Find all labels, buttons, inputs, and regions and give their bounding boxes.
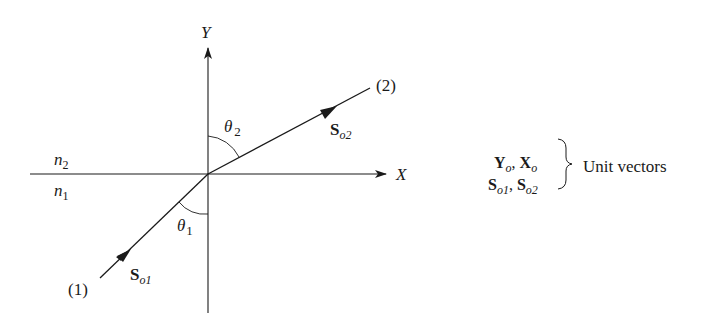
y-axis-label: Y <box>201 23 212 42</box>
theta1-label: θ1 <box>177 216 193 238</box>
theta2-arc <box>208 136 239 157</box>
refracted-arrowhead <box>320 106 337 119</box>
legend-line-2: So1, So2 <box>488 176 538 197</box>
ray-2-label: (2) <box>376 76 396 95</box>
theta2-label: θ2 <box>224 117 241 139</box>
legend-line-1: Yo, Xo <box>494 154 537 175</box>
theta1-arc <box>179 202 208 214</box>
vector-so2-label: So2 <box>330 120 351 142</box>
unit-vectors-label: Unit vectors <box>583 157 667 176</box>
curly-brace-icon <box>558 139 572 189</box>
vector-so1-label: So1 <box>130 265 151 287</box>
medium-n2-label: n2 <box>54 150 69 172</box>
unit-vector-legend: Yo, Xo So1, So2 Unit vectors <box>488 139 667 197</box>
refraction-diagram: X Y n2 n1 (1) So1 (2) So2 θ2 θ1 Yo, Xo S… <box>0 0 721 328</box>
x-axis-label: X <box>395 165 407 184</box>
medium-n1-label: n1 <box>54 181 69 203</box>
ray-1-label: (1) <box>68 280 88 299</box>
